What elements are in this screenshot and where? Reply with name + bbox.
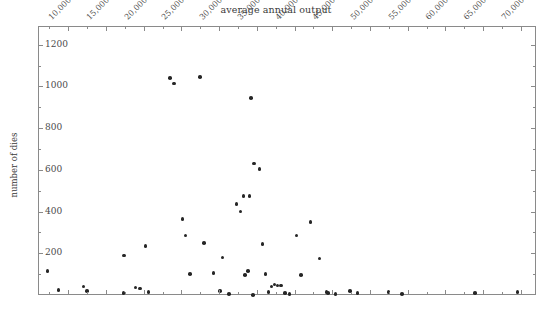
data-point xyxy=(221,256,225,260)
data-point xyxy=(172,82,176,86)
x-tick-major xyxy=(257,290,258,295)
y-tick-major xyxy=(38,45,43,46)
x-tick-major xyxy=(295,26,296,31)
y-tick-minor xyxy=(533,66,536,67)
data-point xyxy=(473,291,477,295)
x-tick-major xyxy=(483,290,484,295)
x-tick-minor xyxy=(464,26,465,29)
x-tick-major xyxy=(408,290,409,295)
data-point xyxy=(239,210,243,214)
y-tick-major xyxy=(38,253,43,254)
y-tick-label: 200 xyxy=(45,247,62,257)
data-point xyxy=(138,287,142,291)
data-point xyxy=(261,242,265,246)
y-tick-major xyxy=(531,128,536,129)
x-tick-minor xyxy=(200,292,201,295)
x-tick-minor xyxy=(125,26,126,29)
x-tick-major xyxy=(483,26,484,31)
x-tick-minor xyxy=(200,26,201,29)
data-point xyxy=(82,285,86,289)
y-tick-label: 600 xyxy=(45,164,62,174)
x-tick-major xyxy=(521,26,522,31)
y-tick-minor xyxy=(533,191,536,192)
x-tick-major xyxy=(445,290,446,295)
y-tick-minor xyxy=(38,274,41,275)
data-point xyxy=(267,290,271,294)
data-point xyxy=(252,162,256,166)
x-tick-minor xyxy=(87,26,88,29)
x-tick-major xyxy=(219,290,220,295)
x-tick-minor xyxy=(427,292,428,295)
y-tick-major xyxy=(38,86,43,87)
x-tick-major xyxy=(257,26,258,31)
data-point xyxy=(227,292,231,296)
data-point xyxy=(248,194,252,198)
x-tick-major xyxy=(181,290,182,295)
x-tick-major xyxy=(68,290,69,295)
data-point xyxy=(243,273,247,277)
y-tick-label: 1000 xyxy=(45,80,68,90)
data-point xyxy=(144,244,148,248)
y-tick-minor xyxy=(38,66,41,67)
x-tick-major xyxy=(332,290,333,295)
data-point xyxy=(202,241,206,245)
x-tick-major xyxy=(370,26,371,31)
x-tick-major xyxy=(295,290,296,295)
y-axis-label: number of dies xyxy=(9,115,19,215)
data-point xyxy=(299,273,303,277)
data-point xyxy=(147,290,151,294)
data-point xyxy=(288,292,292,296)
x-tick-minor xyxy=(49,292,50,295)
x-tick-major xyxy=(521,290,522,295)
y-tick-minor xyxy=(38,191,41,192)
y-tick-major xyxy=(531,253,536,254)
x-tick-major xyxy=(219,26,220,31)
data-point xyxy=(318,257,322,261)
y-tick-minor xyxy=(533,274,536,275)
y-tick-label: 800 xyxy=(45,122,62,132)
x-tick-minor xyxy=(276,292,277,295)
data-point xyxy=(356,291,360,295)
x-tick-minor xyxy=(313,26,314,29)
x-tick-major xyxy=(445,26,446,31)
y-tick-major xyxy=(531,212,536,213)
data-point xyxy=(242,194,246,198)
plot-area xyxy=(38,26,536,295)
x-tick-major xyxy=(332,26,333,31)
x-tick-minor xyxy=(49,26,50,29)
data-point xyxy=(134,286,138,290)
data-point xyxy=(295,234,299,238)
y-tick-minor xyxy=(533,107,536,108)
x-tick-major xyxy=(106,290,107,295)
y-tick-label: 400 xyxy=(45,206,62,216)
data-point xyxy=(181,217,185,221)
x-tick-minor xyxy=(464,292,465,295)
y-tick-minor xyxy=(533,149,536,150)
x-tick-minor xyxy=(238,292,239,295)
data-point xyxy=(198,75,202,79)
data-point xyxy=(212,271,216,275)
data-point xyxy=(516,290,520,294)
x-tick-minor xyxy=(87,292,88,295)
x-tick-minor xyxy=(276,26,277,29)
data-point xyxy=(235,202,239,206)
y-tick-major xyxy=(531,86,536,87)
data-point xyxy=(188,272,192,276)
y-tick-label: 1200 xyxy=(45,39,68,49)
data-point xyxy=(57,288,61,292)
y-tick-major xyxy=(38,128,43,129)
y-tick-major xyxy=(38,212,43,213)
x-tick-major xyxy=(408,26,409,31)
data-point xyxy=(400,292,404,296)
data-point xyxy=(46,269,50,273)
x-tick-minor xyxy=(502,292,503,295)
data-point xyxy=(326,291,330,295)
x-tick-minor xyxy=(389,26,390,29)
x-tick-minor xyxy=(125,292,126,295)
data-point xyxy=(283,291,287,295)
scatter-plot-figure: average annual output number of dies 10,… xyxy=(0,0,552,315)
x-tick-major xyxy=(181,26,182,31)
x-tick-minor xyxy=(163,26,164,29)
data-point xyxy=(264,272,268,276)
y-tick-major xyxy=(531,45,536,46)
